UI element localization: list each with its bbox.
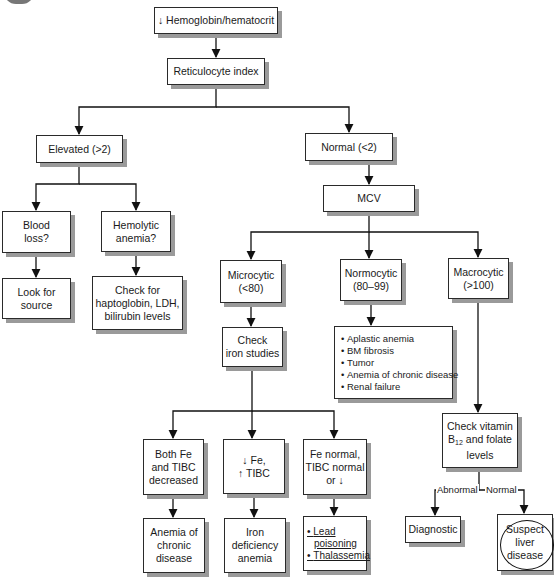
node-text: (>100) — [463, 279, 494, 292]
node-text: Microcytic — [228, 269, 275, 282]
node-text: Elevated (>2) — [48, 143, 111, 156]
node-text: disease — [507, 549, 543, 562]
node-both-decreased: Both Fe and TIBC decreased — [143, 439, 204, 495]
node-text: Check vitamin — [447, 420, 513, 433]
list-item: Renal failure — [341, 381, 400, 393]
node-text: TIBC normal — [306, 461, 365, 474]
node-mcv: MCV — [323, 185, 415, 212]
node-normocytic: Normocytic (80–99) — [340, 259, 402, 301]
node-check-iron-studies: Check iron studies — [222, 327, 283, 367]
node-hemoglobin: ↓ Hemoglobin/hematocrit — [154, 7, 278, 34]
node-text: Reticulocyte index — [173, 65, 258, 78]
list-item: BM fibrosis — [341, 345, 394, 357]
node-text: decreased — [149, 474, 198, 487]
node-lead-thalassemia: Lead poisoning Thalassemia — [303, 516, 367, 571]
list-item: Thalassemia — [307, 550, 370, 562]
node-macrocytic: Macrocytic (>100) — [448, 258, 509, 299]
list-item: Lead — [307, 526, 336, 538]
node-text: Hemolytic — [113, 219, 159, 232]
node-text: bilirubin levels — [105, 310, 171, 323]
node-check-b12-folate: Check vitamin B12 and folate levels — [442, 413, 518, 468]
edge-label-abnormal: Abnormal — [436, 484, 479, 495]
node-diagnostic: Diagnostic — [405, 516, 461, 543]
node-text: loss? — [24, 232, 49, 245]
list-item: Tumor — [341, 357, 374, 369]
node-text: Anemia of — [150, 526, 197, 539]
node-look-for-source: Look for source — [2, 278, 71, 319]
node-text: anemia? — [116, 232, 156, 245]
node-text: Iron — [246, 526, 264, 539]
node-text: anemia — [238, 552, 272, 565]
node-hemolytic-anemia: Hemolytic anemia? — [101, 211, 171, 252]
node-text: levels — [467, 449, 494, 462]
node-fe-normal: Fe normal, TIBC normal or ↓ — [303, 439, 367, 495]
node-text: Fe normal, — [310, 448, 360, 461]
node-text: Check — [238, 334, 268, 347]
node-text: source — [21, 299, 53, 312]
node-text: or ↓ — [326, 474, 344, 487]
subscript-12: 12 — [455, 439, 463, 446]
node-text: Macrocytic — [453, 266, 503, 279]
node-text: ↓ Hemoglobin/hematocrit — [158, 14, 274, 27]
node-iron-deficiency: Iron deficiency anemia — [224, 518, 286, 573]
and-folate: and folate — [463, 433, 512, 445]
node-text: Check for — [115, 284, 160, 297]
node-text: ↑ TIBC — [238, 467, 270, 480]
node-text: iron studies — [226, 347, 280, 360]
node-text: MCV — [357, 192, 380, 205]
node-normal: Normal (<2) — [305, 133, 393, 161]
node-text: deficiency — [232, 539, 279, 552]
node-reticulocyte-index: Reticulocyte index — [167, 58, 265, 85]
node-check-haptoglobin: Check for haptoglobin, LDH, bilirubin le… — [92, 276, 183, 330]
node-suspect-liver-disease: Suspect liver disease — [497, 514, 553, 571]
node-text: Normocytic — [345, 267, 398, 280]
node-text: haptoglobin, LDH, — [95, 297, 179, 310]
node-text: B12 and folate — [448, 433, 512, 449]
node-text: liver — [515, 536, 534, 549]
node-fe-low-tibc-high: ↓ Fe, ↑ TIBC — [223, 439, 285, 494]
node-normocytic-causes: Aplastic anemia BM fibrosis Tumor Anemia… — [334, 326, 453, 399]
node-text: Blood — [23, 219, 50, 232]
node-text: Diagnostic — [408, 523, 457, 536]
node-text: chronic — [157, 539, 191, 552]
node-text: ↓ Fe, — [242, 454, 265, 467]
node-text: (<80) — [239, 282, 264, 295]
node-text: disease — [156, 552, 192, 565]
node-text: Suspect — [506, 523, 544, 536]
node-text: Look for — [18, 286, 56, 299]
edge-label-normal: Normal — [485, 484, 518, 495]
node-text: Normal (<2) — [321, 141, 377, 154]
list-item: Anemia of chronic disease — [341, 369, 458, 381]
node-microcytic: Microcytic (<80) — [220, 260, 282, 303]
node-elevated: Elevated (>2) — [36, 135, 123, 163]
node-text: and TIBC — [151, 461, 195, 474]
node-anemia-chronic-disease: Anemia of chronic disease — [143, 518, 205, 573]
list-item-continuation: poisoning — [307, 538, 357, 550]
node-blood-loss: Blood loss? — [2, 211, 71, 253]
list-item: Aplastic anemia — [341, 333, 414, 345]
node-text: (80–99) — [353, 280, 389, 293]
node-text: Both Fe — [155, 448, 192, 461]
